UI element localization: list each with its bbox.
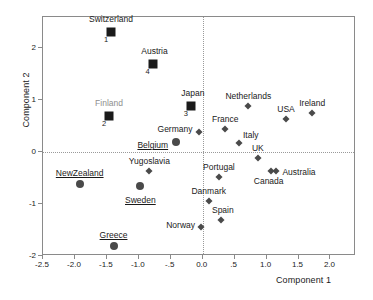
y-tick-label: 2 <box>22 43 36 52</box>
x-tick-label: -.5 <box>165 260 174 269</box>
x-tick <box>138 255 139 259</box>
x-axis-title: Component 1 <box>276 275 331 285</box>
y-tick-label: -1 <box>22 199 36 208</box>
data-point-label: Yugoslavia <box>129 157 170 166</box>
y-tick <box>38 203 42 204</box>
data-point-annotation: 2 <box>102 120 106 128</box>
x-tick <box>106 255 107 259</box>
reference-line-vertical <box>203 17 204 254</box>
data-point-label: France <box>212 115 238 124</box>
x-tick-label: .5 <box>230 260 237 269</box>
x-tick <box>234 255 235 259</box>
data-point-label: Switzerland <box>89 15 133 24</box>
x-tick-label: 0.0 <box>196 260 207 269</box>
data-point-label: Australia <box>282 168 315 177</box>
data-point-label: Danmark <box>191 187 225 196</box>
x-tick <box>266 255 267 259</box>
data-point-label: Portugal <box>203 163 235 172</box>
data-point-label: NewZealand <box>56 169 104 178</box>
y-tick <box>38 255 42 256</box>
x-tick <box>74 255 75 259</box>
data-point-marker <box>136 182 144 190</box>
scatter-plot: Component 2 Component 1 -2.5-2.0-1.5-1.0… <box>0 0 373 300</box>
y-tick <box>38 47 42 48</box>
y-tick <box>38 151 42 152</box>
x-tick <box>329 255 330 259</box>
data-point-annotation: 1 <box>104 36 108 44</box>
data-point-label: Finland <box>95 99 123 108</box>
data-point-annotation: 4 <box>145 68 149 76</box>
x-tick-label: -2.0 <box>67 260 81 269</box>
data-point-label: Greece <box>100 231 128 240</box>
x-tick-label: 1.5 <box>292 260 303 269</box>
data-point-label: Sweden <box>125 196 156 205</box>
data-point-label: Germany <box>158 125 193 134</box>
data-point-label: Belgium <box>137 141 168 150</box>
data-point-label: Canada <box>254 177 284 186</box>
y-tick-label: 0 <box>22 147 36 156</box>
data-point-marker <box>76 180 84 188</box>
data-point-marker <box>110 242 118 250</box>
data-point-label: Spain <box>212 206 234 215</box>
data-point-label: Ireland <box>299 99 325 108</box>
data-point-label: Japan <box>181 89 204 98</box>
x-tick-label: -1.0 <box>131 260 145 269</box>
data-point-label: Netherlands <box>225 92 271 101</box>
y-tick-label: 1 <box>22 95 36 104</box>
data-point-label: Austria <box>141 47 167 56</box>
y-tick-label: -2 <box>22 251 36 260</box>
x-tick <box>170 255 171 259</box>
x-tick-label: -1.5 <box>99 260 113 269</box>
x-tick-label: -2.5 <box>35 260 49 269</box>
x-tick-label: 2.0 <box>324 260 335 269</box>
x-tick <box>202 255 203 259</box>
x-tick <box>298 255 299 259</box>
data-point-annotation: 3 <box>184 110 188 118</box>
x-tick <box>42 255 43 259</box>
data-point-label: USA <box>277 105 294 114</box>
data-point-marker <box>172 138 180 146</box>
reference-line-horizontal <box>43 152 354 153</box>
data-point-label: Italy <box>243 131 259 140</box>
y-tick <box>38 99 42 100</box>
data-point-label: Norway <box>166 221 195 230</box>
x-tick-label: 1.0 <box>260 260 271 269</box>
data-point-label: UK <box>252 144 264 153</box>
